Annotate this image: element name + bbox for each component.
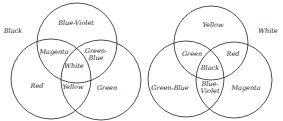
subtractive-region-top: Yellow <box>202 22 223 29</box>
subtractive-region-right: Magenta <box>231 85 260 92</box>
additive-region-right: Green <box>97 85 117 92</box>
subtractive-region-top-left: Green <box>182 51 202 58</box>
additive-region-center: White <box>64 63 83 70</box>
additive-region-top-left: Magenta <box>39 49 68 56</box>
additive-region-bottom: Yellow <box>62 84 83 91</box>
additive-background-label: Black <box>4 28 22 35</box>
venn-diagrams <box>0 0 283 121</box>
additive-circle-top <box>37 3 117 83</box>
subtractive-region-bottom-2: Violet <box>200 88 219 95</box>
additive-region-top: Blue-Violet <box>58 20 94 27</box>
additive-region-top-right-2: Blue <box>89 55 104 62</box>
subtractive-region-top-right: Red <box>227 51 240 58</box>
additive-region-left: Red <box>31 83 44 90</box>
subtractive-background-label: White <box>258 28 277 35</box>
subtractive-region-left: Green-Blue <box>151 85 188 92</box>
subtractive-region-center: Black <box>201 65 219 72</box>
